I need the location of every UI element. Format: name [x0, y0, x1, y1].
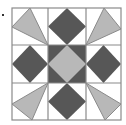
- quilt-block-figure: [0, 0, 126, 125]
